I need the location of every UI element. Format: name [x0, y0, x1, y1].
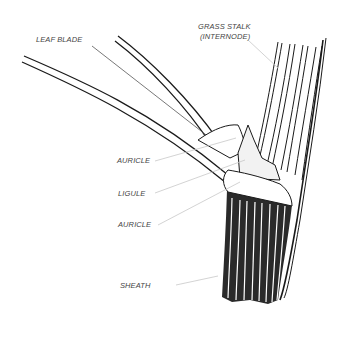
- label-internode: (INTERNODE): [200, 32, 250, 41]
- label-sheath: SHEATH: [120, 281, 150, 290]
- sheath: [222, 190, 292, 304]
- label-auricle-top: AURICLE: [117, 156, 150, 165]
- grass-anatomy-illustration: [0, 0, 345, 359]
- label-ligule: LIGULE: [118, 189, 145, 198]
- label-auricle-bottom: AURICLE: [118, 220, 151, 229]
- leader-sheath: [176, 276, 218, 285]
- leader-grass-stalk: [248, 40, 278, 68]
- label-leaf-blade: LEAF BLADE: [36, 35, 82, 44]
- label-grass-stalk: GRASS STALK: [198, 22, 251, 31]
